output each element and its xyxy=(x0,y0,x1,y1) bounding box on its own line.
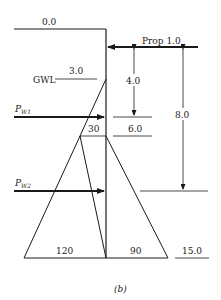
dimension-4-label: 4.0 xyxy=(126,76,141,86)
pressure-line-left-outer xyxy=(24,136,80,258)
pressure-90-label: 90 xyxy=(130,246,142,256)
figure-caption: (b) xyxy=(114,284,127,294)
pressure-30-label: 30 xyxy=(88,124,100,134)
gwl-depth-label: 3.0 xyxy=(69,66,84,76)
level-top-label: 0.0 xyxy=(42,17,57,27)
pw1-label: PW1 xyxy=(14,104,31,115)
pore-pressure-diagram: 0.0 Prop 1.0 GWL 3.0 30 120 90 15.0 PW1 … xyxy=(0,0,221,300)
pw2-label: PW2 xyxy=(14,178,31,189)
prop-label: Prop 1.0 xyxy=(142,36,181,46)
excavation-level-label: 6.0 xyxy=(128,124,143,134)
pressure-120-label: 120 xyxy=(56,246,73,256)
toe-level-label: 15.0 xyxy=(182,246,202,256)
gwl-label: GWL xyxy=(33,75,55,85)
pw2-sub: W2 xyxy=(21,182,31,189)
pressure-line-left-inner xyxy=(80,136,106,258)
dimension-8-label: 8.0 xyxy=(175,110,190,120)
pressure-line-right xyxy=(106,136,168,258)
pw1-sub: W1 xyxy=(21,108,31,115)
